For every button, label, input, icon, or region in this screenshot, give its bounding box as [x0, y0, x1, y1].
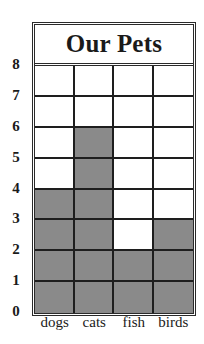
- bar-cell-cats: [75, 159, 115, 190]
- title-box: Our Pets: [35, 25, 193, 66]
- bar-cell-birds: [154, 282, 194, 313]
- y-tick-label: 3: [9, 210, 23, 227]
- bar-cell-dogs: [35, 282, 75, 313]
- bar-cell-birds: [154, 220, 194, 251]
- y-tick-label: 6: [9, 118, 23, 135]
- grid-cell: [114, 190, 154, 221]
- x-tick-label-dogs: dogs: [35, 314, 75, 331]
- grid-cell: [114, 128, 154, 159]
- bar-cell-birds: [154, 251, 194, 282]
- grid-cell: [35, 159, 75, 190]
- grid-cell: [75, 97, 115, 128]
- grid-cell: [154, 97, 194, 128]
- grid-cell: [35, 66, 75, 97]
- grid-cell: [154, 190, 194, 221]
- bar-cell-cats: [75, 190, 115, 221]
- y-tick-label: 0: [9, 303, 23, 320]
- bar-cell-cats: [75, 251, 115, 282]
- bar-cell-cats: [75, 282, 115, 313]
- bar-cell-fish: [114, 282, 154, 313]
- bar-cell-dogs: [35, 251, 75, 282]
- chart-frame: Our Pets: [32, 22, 196, 316]
- y-tick-label: 2: [9, 241, 23, 258]
- bar-cell-fish: [114, 251, 154, 282]
- x-tick-label-cats: cats: [74, 314, 114, 331]
- x-tick-label-fish: fish: [114, 314, 154, 331]
- grid-cell: [154, 159, 194, 190]
- bar-cell-dogs: [35, 220, 75, 251]
- grid-cell: [114, 220, 154, 251]
- grid-cell: [75, 66, 115, 97]
- x-tick-label-birds: birds: [153, 314, 193, 331]
- y-tick-label: 5: [9, 149, 23, 166]
- grid-cell: [35, 97, 75, 128]
- y-tick-label: 7: [9, 87, 23, 104]
- grid-cell: [114, 159, 154, 190]
- grid-cell: [35, 128, 75, 159]
- y-tick-label: 8: [9, 56, 23, 73]
- chart-title: Our Pets: [66, 30, 162, 58]
- y-tick-label: 4: [9, 180, 23, 197]
- bar-cell-cats: [75, 220, 115, 251]
- bar-cell-dogs: [35, 190, 75, 221]
- bar-cell-cats: [75, 128, 115, 159]
- grid-cell: [114, 66, 154, 97]
- grid-cell: [114, 97, 154, 128]
- plot-grid: [35, 66, 193, 313]
- y-tick-label: 1: [9, 272, 23, 289]
- grid-cell: [154, 128, 194, 159]
- grid-cell: [154, 66, 194, 97]
